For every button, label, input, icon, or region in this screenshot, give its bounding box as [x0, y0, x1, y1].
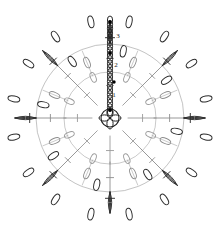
- round-label-3: 3: [116, 32, 120, 40]
- start-dot-1: [108, 108, 111, 111]
- round-label-2: 2: [114, 61, 118, 69]
- crochet-motif-diagram: 123: [0, 0, 219, 228]
- start-dot-2: [112, 80, 115, 83]
- start-dot-3: [108, 51, 111, 54]
- crochet-chart-root: 123: [0, 0, 219, 228]
- round-label-1: 1: [112, 91, 116, 99]
- start-dot-4: [108, 20, 111, 23]
